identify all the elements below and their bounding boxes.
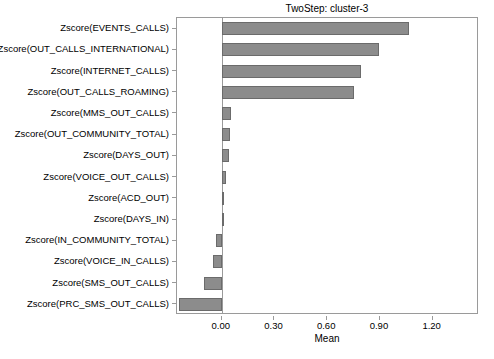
y-axis-tick (172, 134, 176, 135)
plot-inner (177, 18, 477, 313)
bar-row (177, 171, 477, 184)
y-axis-tick (172, 112, 176, 113)
plot-area (176, 17, 478, 314)
y-axis-tick (172, 155, 176, 156)
bar[interactable] (222, 171, 226, 184)
bar-row (177, 149, 477, 162)
y-axis-tick-label: Zscore(DAYS_OUT) (83, 149, 169, 160)
y-axis-tick (172, 261, 176, 262)
y-axis-tick-label: Zscore(ACD_OUT) (88, 192, 169, 203)
y-axis-tick-label: Zscore(MMS_OUT_CALLS) (51, 107, 169, 118)
y-axis-tick (172, 303, 176, 304)
y-axis-tick (172, 91, 176, 92)
bar[interactable] (179, 298, 222, 311)
x-axis-tick-label: 0.00 (211, 320, 230, 331)
bar[interactable] (222, 43, 379, 56)
y-axis-labels: Zscore(EVENTS_CALLS)Zscore(OUT_CALLS_INT… (0, 17, 176, 314)
y-axis-tick-label: Zscore(OUT_CALLS_ROAMING) (28, 86, 169, 97)
bar-row (177, 86, 477, 99)
bar-row (177, 22, 477, 35)
bar-row (177, 192, 477, 205)
bar[interactable] (216, 234, 221, 247)
y-axis-tick (172, 28, 176, 29)
y-axis-tick-label: Zscore(OUT_CALLS_INTERNATIONAL) (0, 43, 169, 54)
y-axis-tick-label: Zscore(VOICE_IN_CALLS) (54, 255, 169, 266)
bar-chart: TwoStep: cluster-3 Zscore(EVENTS_CALLS)Z… (0, 0, 494, 359)
bar-row (177, 277, 477, 290)
bar-row (177, 107, 477, 120)
y-axis-tick (172, 219, 176, 220)
bar[interactable] (222, 149, 229, 162)
x-axis-title: Mean (176, 333, 478, 345)
chart-title: TwoStep: cluster-3 (176, 3, 478, 15)
bar-row (177, 128, 477, 141)
y-axis-tick (172, 70, 176, 71)
bar-row (177, 255, 477, 268)
x-axis-tick-label: 0.30 (264, 320, 283, 331)
y-axis-tick (172, 282, 176, 283)
bar-row (177, 298, 477, 311)
bars-layer (177, 18, 477, 313)
bar-row (177, 213, 477, 226)
bar[interactable] (222, 192, 224, 205)
x-axis-tick-label: 0.90 (370, 320, 389, 331)
bar-row (177, 234, 477, 247)
bar[interactable] (222, 22, 409, 35)
x-axis-tick-label: 0.60 (317, 320, 336, 331)
y-axis-tick (172, 49, 176, 50)
y-axis-tick-label: Zscore(VOICE_OUT_CALLS) (43, 171, 169, 182)
y-axis-tick-label: Zscore(INTERNET_CALLS) (51, 65, 169, 76)
bar[interactable] (204, 277, 222, 290)
y-axis-tick-label: Zscore(IN_COMMUNITY_TOTAL) (25, 234, 169, 245)
bar[interactable] (222, 107, 232, 120)
y-axis-tick (172, 197, 176, 198)
y-axis-tick (172, 240, 176, 241)
y-axis-tick-label: Zscore(PRC_SMS_OUT_CALLS) (27, 298, 169, 309)
bar[interactable] (213, 255, 221, 268)
bar[interactable] (222, 86, 355, 99)
bar[interactable] (222, 213, 224, 226)
y-axis-tick-label: Zscore(EVENTS_CALLS) (60, 22, 169, 33)
y-axis-tick-label: Zscore(DAYS_IN) (94, 213, 169, 224)
bar-row (177, 43, 477, 56)
bar[interactable] (222, 128, 230, 141)
y-axis-tick-label: Zscore(SMS_OUT_CALLS) (52, 277, 169, 288)
bar[interactable] (222, 65, 362, 78)
x-axis-tick-label: 1.20 (422, 320, 441, 331)
y-axis-tick-label: Zscore(OUT_COMMUNITY_TOTAL) (15, 128, 169, 139)
y-axis-tick (172, 176, 176, 177)
bar-row (177, 65, 477, 78)
